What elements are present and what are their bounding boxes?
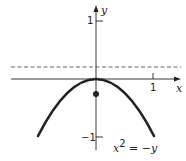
x-axis-label: x xyxy=(176,82,183,95)
x-tick-label-1: 1 xyxy=(150,82,156,93)
x-axis-arrow-icon xyxy=(174,77,181,82)
y-tick-label-1: 1 xyxy=(87,15,93,26)
equation-label: x2 = −y xyxy=(113,138,158,155)
y-axis-label: y xyxy=(100,4,108,17)
parabola-diagram: y x 1 1 −1 x2 = −y xyxy=(0,0,186,161)
focus-point xyxy=(93,91,99,97)
y-tick-label-neg1: −1 xyxy=(81,132,96,143)
y-axis-arrow-icon xyxy=(94,5,99,12)
